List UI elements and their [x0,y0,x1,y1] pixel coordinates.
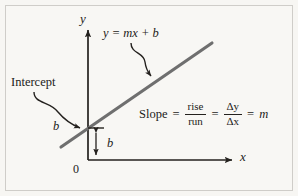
plotted-line [61,43,212,147]
equation-label: y = mx + b [103,27,159,40]
intercept-label: Intercept [11,76,55,89]
run-label: run [185,116,206,128]
slope-formula: Slope = rise run = Δy Δx = m [139,101,268,128]
delta-y-over-delta-x-fraction: Δy Δx [224,101,243,128]
figure-container: y x 0 y = mx + b Intercept b b Slope = r… [0,0,298,196]
x-axis-label: x [240,150,246,163]
rise-label: rise [185,101,207,113]
slope-equals-2: = [211,108,218,121]
y-axis-label: y [80,12,86,25]
delta-y-label: Δy [224,101,243,113]
origin-label: 0 [73,163,79,175]
intercept-symbol-label: b [53,120,59,133]
slope-word: Slope [139,108,167,121]
slope-equals-3: = [247,108,254,121]
delta-x-label: Δx [224,116,243,128]
rise-over-run-fraction: rise run [185,101,207,128]
slope-m-label: m [259,108,268,121]
gap-symbol-label: b [107,137,113,150]
slope-equals-1: = [172,108,179,121]
equation-callout-arrow [131,43,151,76]
